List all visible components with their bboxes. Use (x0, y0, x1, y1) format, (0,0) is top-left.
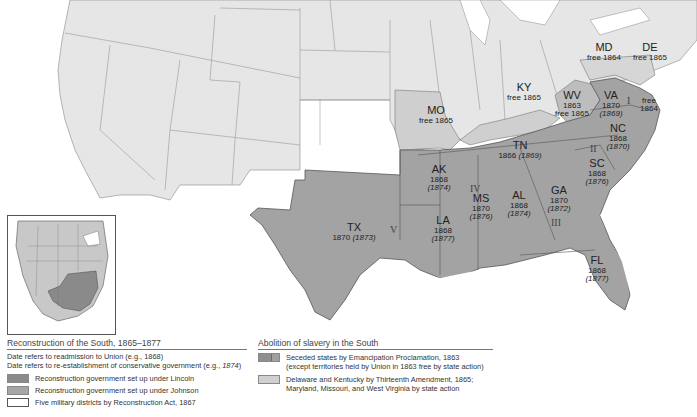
legend-abolition: Abolition of slavery in the South Secede… (258, 338, 493, 393)
label-md: MDfree 1864 (587, 42, 621, 62)
label-de: DEfree 1865 (633, 42, 667, 62)
legend-left-title: Reconstruction of the South, 1865–1877 (7, 338, 247, 350)
label-la: LA1868(1877) (431, 215, 454, 243)
label-tx: TX1870 (1873) (332, 222, 375, 242)
label-ms: MS1870(1876) (469, 193, 492, 221)
district-iv: IV (470, 183, 481, 194)
label-nc: NC1868(1870) (606, 123, 629, 151)
label-va: VA1870(1869) (599, 90, 622, 118)
legend-item-lincoln: Reconstruction government set up under L… (7, 374, 247, 383)
legend-item-military-districts: Five military districts by Reconstructio… (7, 398, 247, 407)
district-iii: III (551, 217, 561, 228)
swatch-thirteenth (258, 375, 280, 384)
swatch-lincoln (7, 374, 29, 383)
inset-locator-map (7, 215, 116, 335)
legend-reconstruction: Reconstruction of the South, 1865–1877 D… (7, 338, 247, 407)
legend-item-thirteenth-amendment: Delaware and Kentucky by Thirteenth Amen… (258, 375, 493, 394)
swatch-emancipation (258, 353, 280, 362)
legend-note-readmission: Date refers to readmission to Union (e.g… (7, 352, 247, 361)
label-fl: FL1868(1877) (585, 255, 608, 283)
legend-item-johnson: Reconstruction government set up under J… (7, 386, 247, 395)
label-wv: WV1863free 1865 (555, 90, 589, 118)
label-tn: TN1866 (1869) (498, 140, 541, 160)
label-mo: MOfree 1865 (419, 105, 453, 125)
label-ak: AK1868(1874) (427, 164, 450, 192)
legend-item-emancipation: Seceded states by Emancipation Proclamat… (258, 353, 493, 372)
swatch-johnson (7, 386, 29, 395)
district-ii: II (590, 143, 597, 154)
swatch-military (7, 398, 29, 407)
legend-right-title: Abolition of slavery in the South (258, 338, 493, 350)
label-ky: KYfree 1865 (507, 82, 541, 102)
district-v: V (390, 224, 397, 235)
legend-note-conservative: Date refers to re-establishment of conse… (7, 361, 247, 370)
label-al: AL1868(1874) (507, 190, 530, 218)
label-va-shore: free1864 (640, 97, 658, 114)
label-ga: GA1870(1872) (547, 185, 570, 213)
district-i: I (627, 95, 630, 106)
label-sc: SC1868(1876) (585, 158, 608, 186)
